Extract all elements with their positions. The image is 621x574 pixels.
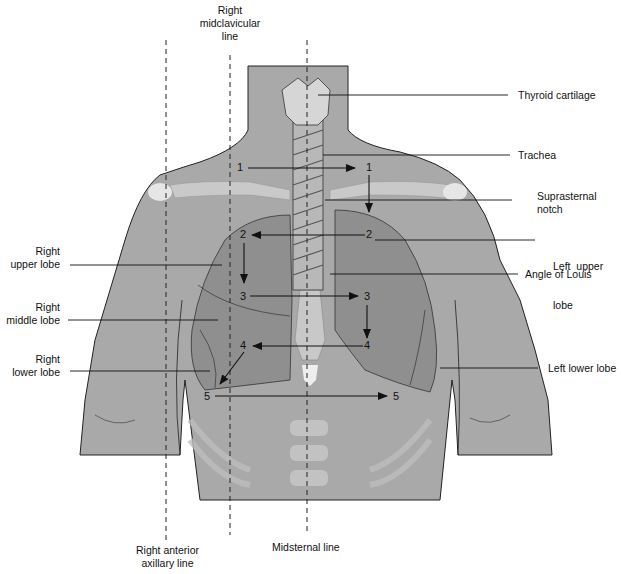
label-line-2: notch: [537, 203, 597, 216]
lower-spine: [290, 420, 328, 486]
label-suprasternal-notch: Suprasternal notch: [537, 190, 597, 216]
point-1-right: 1: [237, 161, 243, 173]
label-midsternal-line: Midsternal line: [272, 541, 340, 554]
label-line-1: Right: [2, 245, 60, 258]
label-line-1: Right: [2, 353, 60, 366]
label-line-1: Right: [2, 301, 60, 314]
sternum: [295, 290, 325, 360]
point-2-left: 2: [366, 228, 372, 240]
trachea: [293, 120, 323, 290]
label-line-3: line: [190, 30, 270, 43]
label-left-lower-lobe: Left lower lobe: [548, 362, 616, 375]
label-line-1: Right anterior: [120, 544, 215, 557]
label-line-2: lobe: [553, 299, 603, 312]
label-line-2: upper lobe: [2, 258, 60, 271]
label-right-middle-lobe: Right middle lobe: [2, 301, 60, 327]
thyroid-cartilage: [282, 78, 330, 125]
point-3-left: 3: [364, 290, 370, 302]
label-angle-of-louis: Angle of Louis: [525, 268, 592, 281]
label-line-1: Suprasternal: [537, 190, 597, 203]
point-1-left: 1: [366, 161, 372, 173]
point-4-right: 4: [240, 339, 246, 351]
point-3-right: 3: [240, 290, 246, 302]
label-line-2: lower lobe: [2, 366, 60, 379]
label-right-lower-lobe: Right lower lobe: [2, 353, 60, 379]
label-trachea: Trachea: [518, 149, 556, 162]
label-line-2: middle lobe: [2, 314, 60, 327]
point-5-right: 5: [204, 390, 210, 402]
chest-diagram: [0, 0, 621, 574]
label-thyroid-cartilage: Thyroid cartilage: [518, 89, 596, 102]
label-right-midclavicular-line: Right midclavicular line: [190, 4, 270, 43]
label-line-2: midclavicular: [190, 17, 270, 30]
label-right-upper-lobe: Right upper lobe: [2, 245, 60, 271]
label-line-2: axillary line: [120, 557, 215, 570]
label-right-anterior-axillary-line: Right anterior axillary line: [120, 544, 215, 570]
label-line-1: Right: [190, 4, 270, 17]
point-2-right: 2: [240, 228, 246, 240]
point-5-left: 5: [393, 390, 399, 402]
point-4-left: 4: [364, 339, 370, 351]
